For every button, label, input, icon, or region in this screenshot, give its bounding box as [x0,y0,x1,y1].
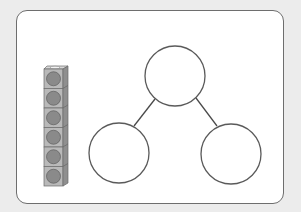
cube [44,164,68,187]
cube-dot [47,91,61,105]
worksheet-stage [0,0,301,212]
connector-right [196,98,217,126]
cube-dot [47,111,61,125]
cube-dot [47,130,61,144]
part-circle-right[interactable] [201,124,261,184]
cube [44,86,68,109]
cube [44,125,68,148]
cube-dot [47,150,61,164]
whole-circle[interactable] [145,46,205,106]
cube-nub [50,66,60,69]
cube-stack [44,66,68,186]
cube [44,66,68,89]
part-circle-left[interactable] [89,123,149,183]
cube-dot [47,72,61,86]
cube [44,105,68,128]
cube [44,144,68,167]
cube-dot [47,169,61,183]
part-whole-diagram [0,0,301,212]
connector-left [134,99,155,126]
